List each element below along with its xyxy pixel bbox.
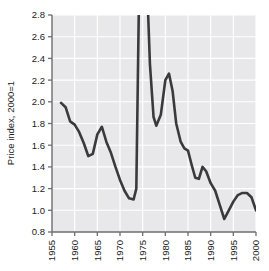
x-tick-label: 1965: [92, 240, 103, 261]
x-tick-label: 1970: [114, 240, 125, 261]
x-axis-ticks: 1955196019651970197519801985199019952000: [46, 232, 261, 261]
y-tick-label: 1.8: [32, 118, 45, 129]
x-tick-label: 1960: [69, 240, 80, 261]
y-tick-label: 0.8: [32, 226, 45, 237]
y-tick-label: 2.2: [32, 75, 45, 86]
x-tick-label: 1975: [137, 240, 148, 261]
y-tick-label: 1.4: [32, 161, 45, 172]
x-tick-label: 1985: [182, 240, 193, 261]
y-tick-label: 2.0: [32, 96, 45, 107]
y-tick-label: 2.6: [32, 31, 45, 42]
x-tick-label: 1990: [205, 240, 216, 261]
y-tick-label: 1.6: [32, 140, 45, 151]
y-axis-title: Price index, 2000=1: [5, 81, 16, 165]
y-tick-label: 1.0: [32, 205, 45, 216]
chart-figure: 0.81.01.21.41.61.82.02.22.42.62.8 195519…: [0, 0, 269, 271]
y-tick-label: 2.8: [32, 9, 45, 20]
x-tick-label: 1980: [160, 240, 171, 261]
y-tick-label: 1.2: [32, 183, 45, 194]
x-tick-label: 1995: [228, 240, 239, 261]
x-tick-label: 2000: [250, 240, 261, 261]
x-tick-label: 1955: [46, 240, 57, 261]
price-index-line-chart: 0.81.01.21.41.61.82.02.22.42.62.8 195519…: [0, 0, 269, 271]
y-tick-label: 2.4: [32, 53, 45, 64]
y-axis-ticks: 0.81.01.21.41.61.82.02.22.42.62.8: [32, 9, 52, 237]
